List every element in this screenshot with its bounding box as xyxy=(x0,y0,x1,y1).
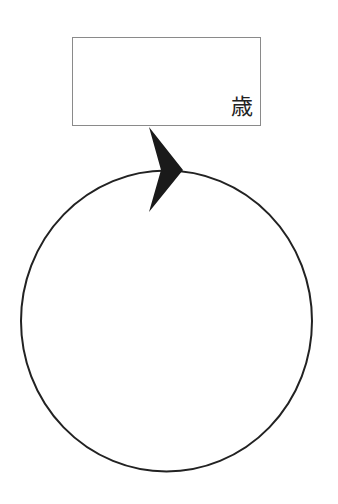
cycle-circle xyxy=(21,171,312,472)
cycle-diagram xyxy=(0,0,338,504)
arrowhead-icon xyxy=(149,127,183,212)
